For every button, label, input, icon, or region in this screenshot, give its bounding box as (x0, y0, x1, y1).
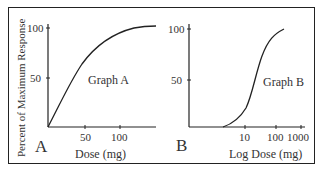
panel-label-a: A (35, 137, 48, 156)
graph-b: 100 50 10 100 1000 Graph B Log Dose (mg)… (168, 23, 310, 161)
y-axis-label: Percent of Maximum Response (15, 18, 27, 157)
graph-a-x-tick-100: 100 (111, 131, 128, 143)
graph-a-title: Graph A (88, 73, 129, 87)
graph-a-y-tick-50: 50 (30, 72, 42, 84)
graph-a: 100 50 50 100 Graph A Dose (mg) A Percen… (15, 18, 156, 161)
panel-label-b: B (176, 136, 187, 155)
graph-b-x-tick-10: 10 (239, 131, 251, 143)
graph-b-y-tick-100: 100 (168, 23, 185, 35)
graph-a-y-tick-100: 100 (27, 22, 44, 34)
graph-b-x-tick-1000: 1000 (287, 131, 310, 143)
graph-b-x-label: Log Dose (mg) (229, 147, 302, 161)
graph-a-x-tick-50: 50 (80, 131, 92, 143)
graph-a-x-label: Dose (mg) (75, 147, 126, 161)
graph-b-y-tick-50: 50 (171, 74, 183, 86)
graph-b-title: Graph B (263, 75, 304, 89)
dose-response-figure: 100 50 50 100 Graph A Dose (mg) A Percen… (0, 0, 325, 173)
graph-b-x-tick-100: 100 (267, 131, 284, 143)
